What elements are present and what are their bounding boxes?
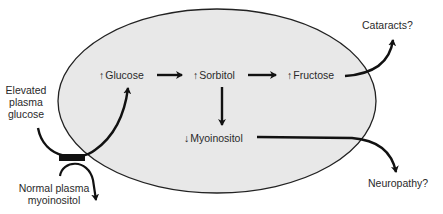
up-arrow-icon: ↑ [99,69,104,81]
transporter-block-icon [59,154,85,161]
node-myoinositol: ↓Myoinositol [184,132,243,144]
label-line: Normal plasma [14,182,94,194]
node-label: Sorbitol [199,69,235,81]
cell-ellipse [58,9,376,193]
up-arrow-icon: ↑ [193,69,198,81]
label-neuropathy: Neuropathy? [368,177,428,189]
label-cataracts: Cataracts? [362,19,413,31]
label-normal-plasma-myoinositol: Normal plasma myoinositol [14,182,94,206]
node-fructose: ↑Fructose [287,69,334,81]
node-glucose: ↑Glucose [99,69,144,81]
node-label: Glucose [105,69,144,81]
label-line: glucose [4,108,48,120]
label-line: myoinositol [14,194,94,206]
node-label: Fructose [293,69,334,81]
up-arrow-icon: ↑ [287,69,292,81]
node-label: Myoinositol [190,132,243,144]
label-line: Elevated [4,84,48,96]
label-elevated-plasma-glucose: Elevated plasma glucose [4,84,48,120]
label-line: plasma [4,96,48,108]
node-sorbitol: ↑Sorbitol [193,69,235,81]
down-arrow-icon: ↓ [184,132,189,144]
